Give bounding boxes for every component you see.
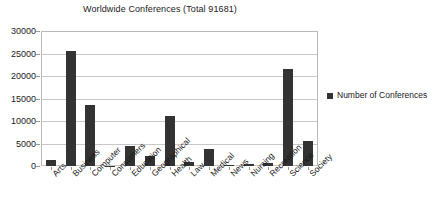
y-tick-label: 30000 (11, 27, 36, 36)
x-slot: Science (278, 167, 298, 223)
x-slot: Society (298, 167, 318, 223)
x-slot: Business (61, 167, 81, 223)
bar-slot (239, 31, 259, 166)
y-tick-mark (36, 121, 40, 122)
legend-item-label: Number of Conferences (337, 91, 427, 100)
x-slot: Nursing (239, 167, 259, 223)
bar-slot (81, 31, 101, 166)
y-tick-mark (36, 31, 40, 32)
y-axis: 050001000015000200002500030000 (0, 31, 36, 166)
y-tick-label: 5000 (16, 139, 36, 148)
x-slot: News (219, 167, 239, 223)
x-slot: Law (179, 167, 199, 223)
bar-slot (199, 31, 219, 166)
x-axis: ArtsBusinessComputerConsumersEducationGe… (41, 167, 318, 223)
y-tick-label: 10000 (11, 117, 36, 126)
x-slot: Health (160, 167, 180, 223)
y-tick-label: 20000 (11, 72, 36, 81)
x-slot: Computer (81, 167, 101, 223)
x-slot: Medical (199, 167, 219, 223)
y-tick-mark (36, 54, 40, 55)
x-slot: Geographical (140, 167, 160, 223)
y-tick-label: 15000 (11, 94, 36, 103)
x-slot: Consumers (100, 167, 120, 223)
y-tick-mark (36, 166, 40, 167)
y-tick-mark (36, 144, 40, 145)
y-tick-mark (36, 76, 40, 77)
x-slot: Education (120, 167, 140, 223)
y-tick-mark (36, 99, 40, 100)
x-slot: Arts (41, 167, 61, 223)
bar-slot (259, 31, 279, 166)
y-tick-label: 25000 (11, 49, 36, 58)
bar-slot (219, 31, 239, 166)
bar[interactable] (66, 51, 76, 166)
bar-slot (298, 31, 318, 166)
bar-slot (61, 31, 81, 166)
x-slot: Recreation (259, 167, 279, 223)
bar-chart: Worldwide Conferences (Total 91681) 0500… (0, 0, 438, 223)
square-marker-icon (327, 93, 333, 99)
bar[interactable] (204, 149, 214, 166)
bar[interactable] (46, 160, 56, 166)
chart-title: Worldwide Conferences (Total 91681) (0, 4, 320, 14)
legend: Number of Conferences (327, 91, 427, 100)
bar-slot (41, 31, 61, 166)
